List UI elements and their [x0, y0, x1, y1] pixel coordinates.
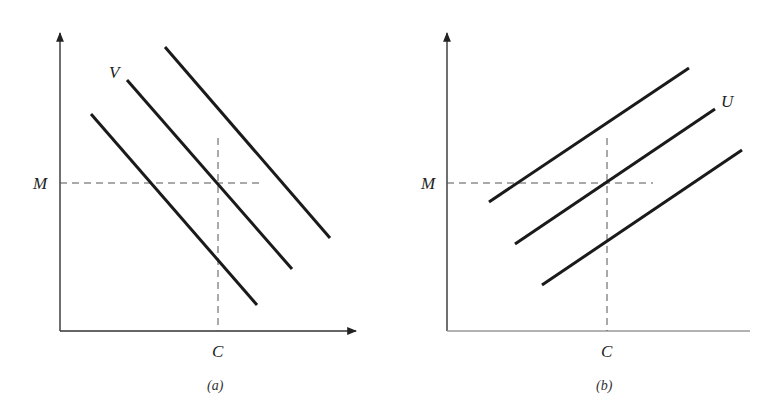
line-high-b	[489, 68, 689, 202]
y-label-m-b: M	[420, 174, 436, 193]
caption-b: (b)	[596, 378, 613, 394]
line-u-b	[515, 109, 715, 244]
caption-a: (a)	[207, 378, 224, 394]
line-high-a	[165, 47, 330, 238]
curve-label-v: V	[109, 63, 122, 82]
x-label-c-a: C	[212, 342, 224, 361]
panel-b	[447, 33, 750, 331]
x-label-c-b: C	[601, 342, 613, 361]
y-label-m-a: M	[32, 174, 48, 193]
line-low-a	[91, 114, 257, 305]
line-v-a	[127, 80, 292, 269]
figure-canvas: V M C (a) U M C (b)	[0, 0, 773, 412]
panel-a	[60, 33, 356, 331]
line-low-b	[542, 150, 742, 285]
curve-label-u: U	[721, 92, 735, 111]
